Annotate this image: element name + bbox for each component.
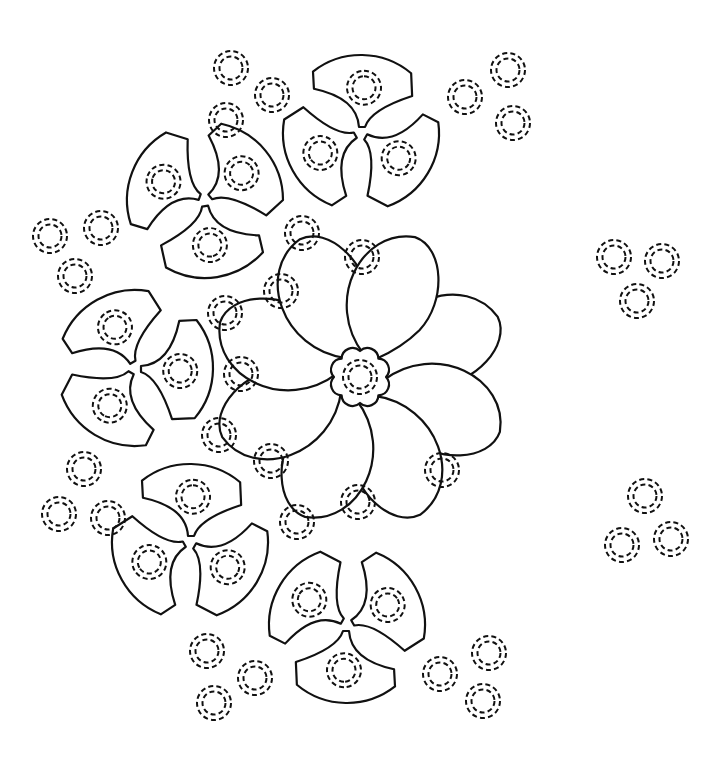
loose-stud-icon (466, 684, 500, 718)
loose-stud-icon (197, 686, 231, 720)
triskelion-lower-left (97, 464, 282, 625)
loose-stud-icon (214, 51, 248, 85)
loose-stud-icon (448, 80, 482, 114)
central-flower (203, 220, 517, 534)
loose-stud-icon (255, 78, 289, 112)
loose-stud-icon (620, 284, 654, 318)
loose-stud-icon (597, 240, 631, 274)
triskelion-blade (313, 55, 412, 127)
loose-stud-icon (67, 452, 101, 486)
loose-stud-icon (472, 636, 506, 670)
loose-stud-icon (423, 657, 457, 691)
loose-stud-icon (605, 528, 639, 562)
loose-stud-icon (280, 505, 314, 539)
loose-stud-icon (42, 497, 76, 531)
loose-stud-icon (654, 522, 688, 556)
loose-stud-icon (58, 259, 92, 293)
loose-stud-icon (645, 244, 679, 278)
triskelion-blade (296, 631, 395, 703)
triskelion-top (268, 55, 453, 216)
loose-stud-icon (238, 661, 272, 695)
loose-stud-icon (491, 53, 525, 87)
triskelion-blade (141, 320, 213, 419)
triskelion-bottom (255, 542, 440, 703)
triskelion-blade (156, 198, 266, 286)
triskelion-left (52, 275, 213, 460)
triskelion-blade (142, 464, 241, 536)
loose-stud-icon (190, 634, 224, 668)
loose-stud-icon (33, 219, 67, 253)
loose-stud-icon (496, 106, 530, 140)
loose-stud-icon (84, 211, 118, 245)
loose-stud-icon (628, 479, 662, 513)
petal-stud-icon (341, 485, 375, 519)
pattern-canvas (0, 0, 719, 759)
